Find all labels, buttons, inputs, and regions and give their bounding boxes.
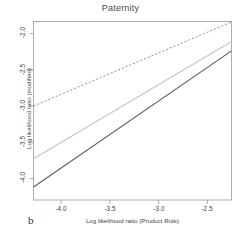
series-line-lower-dark-solid — [34, 51, 232, 187]
series-line-upper-dashed — [34, 22, 232, 106]
plot-frame — [34, 22, 232, 201]
x-axis-ticks — [61, 200, 207, 204]
x-tick-label-1: -3.5 — [98, 205, 122, 212]
plot-canvas — [0, 0, 241, 235]
x-tick-label-2: -3.0 — [147, 205, 171, 212]
chart-figure: Paternity -2.0 -2.5 -3.0 -3.5 -4.0 — [0, 0, 241, 235]
series-line-middle-light-solid — [34, 42, 232, 159]
panel-label: b — [28, 214, 34, 226]
y-axis-label: Log likelihood ratio (modified) — [25, 29, 32, 189]
x-tick-label-3: -2.5 — [195, 205, 219, 212]
x-tick-label-0: -4.0 — [49, 205, 73, 212]
x-axis-label: Log likelihood ratio (Product Rule) — [33, 217, 232, 224]
